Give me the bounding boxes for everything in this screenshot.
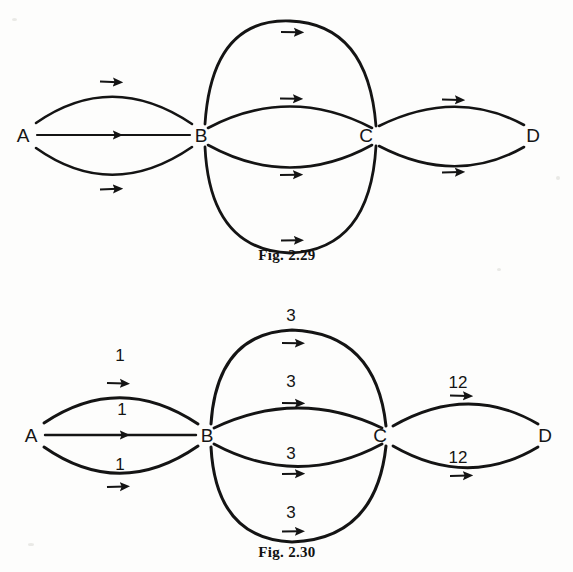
figure-2-29: A B C D Fig. 2.29	[0, 0, 573, 286]
node-label-A: A	[17, 126, 30, 145]
edge-B-C-lower-outer	[205, 146, 376, 253]
edge-A-B-lower	[36, 147, 192, 190]
edge-C-D-upper	[379, 100, 524, 127]
edge-B-C-lower-inner	[208, 145, 372, 175]
edge-B-C-upper-outer	[211, 330, 386, 426]
node-label-B: B	[201, 426, 214, 445]
edge-weight-B-C-lower-inner: 3	[286, 445, 295, 462]
scan-speck	[12, 18, 17, 21]
edge-B-C-upper-inner	[214, 403, 382, 428]
scan-speck	[497, 268, 501, 271]
edge-weight-B-C-lower-outer: 3	[286, 504, 295, 521]
edge-B-C-lower-inner	[214, 444, 382, 474]
node-label-B: B	[195, 126, 208, 145]
edge-weight-B-C-upper-inner: 3	[286, 373, 295, 390]
figure-caption: Fig. 2.29	[258, 247, 315, 264]
edge-weight-C-D-upper: 12	[449, 374, 468, 391]
node-label-A: A	[25, 426, 38, 445]
node-label-C: C	[373, 426, 387, 445]
edge-weight-A-B-straight: 1	[117, 401, 126, 418]
scan-speck	[556, 176, 560, 180]
edge-weight-B-C-upper-outer: 3	[286, 307, 295, 324]
edge-B-C-lower-outer	[211, 446, 386, 542]
scan-speck	[28, 543, 34, 546]
figure-caption: Fig. 2.30	[258, 544, 315, 561]
edge-B-C-upper-inner	[208, 99, 372, 129]
figure-2-30: A B C D 1 1 1 3 3 3 3 12 12 Fig. 2.30	[0, 286, 573, 572]
edge-weight-A-B-lower: 1	[115, 456, 124, 473]
node-label-C: C	[359, 126, 373, 145]
diagram-page: A B C D Fig. 2.29	[0, 0, 573, 572]
figure-2-29-canvas	[0, 0, 573, 286]
edge-weight-A-B-upper: 1	[115, 347, 124, 364]
node-label-D: D	[526, 126, 540, 145]
edge-C-D-lower	[379, 146, 524, 173]
edge-B-C-upper-outer	[205, 21, 376, 126]
edge-C-D-upper	[393, 396, 538, 427]
edge-A-B-upper	[36, 82, 192, 125]
edge-weight-C-D-lower: 12	[449, 449, 468, 466]
figure-2-30-canvas	[0, 286, 573, 572]
node-label-D: D	[538, 426, 552, 445]
